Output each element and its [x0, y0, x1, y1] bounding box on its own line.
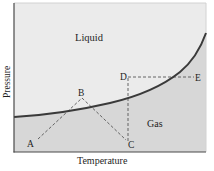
point-label-a: A [27, 139, 34, 149]
phase-diagram: Liquid Gas A B C D E Temperature Pressur… [0, 0, 214, 171]
region-label-gas: Gas [147, 118, 163, 129]
point-label-e: E [195, 73, 201, 83]
point-label-c: C [128, 140, 134, 150]
point-label-d: D [120, 72, 127, 82]
region-label-liquid: Liquid [75, 32, 104, 43]
point-label-b: B [78, 88, 84, 98]
x-axis-label: Temperature [77, 155, 128, 166]
y-axis-label: Pressure [2, 66, 12, 98]
